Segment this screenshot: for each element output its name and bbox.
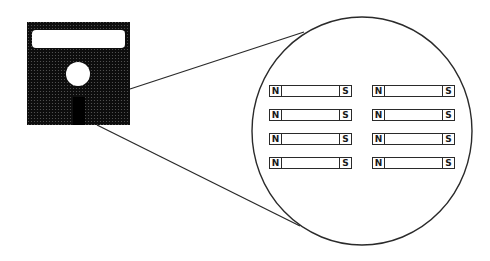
south-pole-label: S [339,110,351,120]
north-pole-label: N [373,158,385,168]
disk-hub-hole [66,62,90,86]
north-pole-label: N [270,158,282,168]
south-pole-label: S [339,86,351,96]
north-pole-label: N [373,134,385,144]
bar-magnet: N S [269,85,352,97]
south-pole-label: S [442,158,454,168]
floppy-disk-icon [27,22,130,125]
bar-magnet: N S [372,109,455,121]
magnified-view-circle [252,17,472,245]
south-pole-label: S [339,158,351,168]
diagram-svg [0,0,490,261]
zoom-line-top [130,32,304,89]
bar-magnet: N S [269,157,352,169]
disk-read-slot [73,97,85,125]
south-pole-label: S [442,134,454,144]
north-pole-label: N [270,134,282,144]
bar-magnet: N S [372,157,455,169]
north-pole-label: N [270,110,282,120]
bar-magnet: N S [269,133,352,145]
diagram-canvas: N S N S N S N S N S N S N S N S [0,0,490,261]
disk-label-area [32,30,125,48]
north-pole-label: N [373,86,385,96]
north-pole-label: N [373,110,385,120]
bar-magnet: N S [269,109,352,121]
bar-magnet: N S [372,133,455,145]
south-pole-label: S [442,86,454,96]
south-pole-label: S [442,110,454,120]
bar-magnet: N S [372,85,455,97]
south-pole-label: S [339,134,351,144]
north-pole-label: N [270,86,282,96]
